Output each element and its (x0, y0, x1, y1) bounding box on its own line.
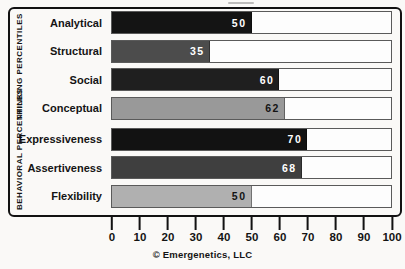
rows: Analytical 50 Structural 35 Social 60 Co… (10, 9, 400, 213)
bar-track: 50 (111, 185, 392, 208)
tick-label: 30 (190, 232, 203, 244)
axis-tick: 10 (134, 217, 147, 244)
axis-tick: 40 (218, 217, 231, 244)
bar-value: 70 (288, 134, 303, 145)
bar-value: 50 (232, 191, 247, 202)
category-label: Assertiveness (15, 156, 111, 179)
tick-label: 40 (218, 232, 231, 244)
axis-tick: 80 (330, 217, 343, 244)
bar-row: Structural 35 (15, 40, 400, 63)
bar-row: Flexibility 50 (15, 185, 400, 208)
tick-label: 80 (330, 232, 343, 244)
tick-mark (251, 217, 253, 230)
bar-track: 60 (111, 68, 392, 91)
axis-tick: 0 (109, 217, 115, 244)
tick-label: 10 (134, 232, 147, 244)
bar-track: 50 (111, 11, 392, 34)
bar-row: Assertiveness 68 (15, 156, 400, 179)
tick-mark (139, 217, 141, 230)
bar-value: 50 (232, 17, 247, 28)
tick-label: 50 (246, 232, 259, 244)
axis-tick: 90 (358, 217, 371, 244)
tick-label: 0 (109, 232, 115, 244)
tick-mark (391, 217, 393, 230)
scan-artifact (228, 2, 254, 4)
bar-value: 68 (282, 162, 297, 173)
bar-value: 35 (190, 46, 205, 57)
tick-label: 70 (302, 232, 315, 244)
tick-mark (335, 217, 337, 230)
tick-label: 60 (274, 232, 287, 244)
bar-track: 35 (111, 40, 392, 63)
category-label: Expressiveness (15, 128, 111, 151)
bar-fill: 68 (112, 157, 302, 178)
tick-mark (307, 217, 309, 230)
bar-fill: 35 (112, 41, 210, 62)
bar-track: 70 (111, 128, 392, 151)
tick-mark (195, 217, 197, 230)
bar-fill: 50 (112, 12, 252, 33)
axis-tick: 50 (246, 217, 259, 244)
bar-fill: 62 (112, 98, 285, 119)
category-label: Analytical (15, 11, 111, 34)
category-label: Social (15, 68, 111, 91)
category-label: Structural (15, 40, 111, 63)
chart-caption: © Emergenetics, LLC (0, 249, 405, 260)
bar-fill: 60 (112, 69, 279, 90)
bar-row: Expressiveness 70 (15, 128, 400, 151)
axis-tick: 100 (382, 217, 401, 244)
axis-tick: 60 (274, 217, 287, 244)
bar-fill: 50 (112, 186, 252, 207)
bar-fill: 70 (112, 129, 307, 150)
bar-row: Conceptual 62 (15, 97, 400, 120)
tick-label: 90 (358, 232, 371, 244)
bar-track: 68 (111, 156, 392, 179)
tick-mark (223, 217, 225, 230)
bar-value: 60 (260, 74, 275, 85)
axis-tick: 70 (302, 217, 315, 244)
tick-mark (167, 217, 169, 230)
axis-tick: 20 (162, 217, 175, 244)
category-label: Conceptual (15, 97, 111, 120)
axis-tick: 30 (190, 217, 203, 244)
tick-label: 20 (162, 232, 175, 244)
tick-mark (363, 217, 365, 230)
tick-label: 100 (382, 232, 401, 244)
chart-box: THINKING PERCENTILES BEHAVIORAL PERCENTI… (8, 7, 402, 217)
tick-mark (111, 217, 113, 230)
bar-row: Social 60 (15, 68, 400, 91)
category-label: Flexibility (15, 185, 111, 208)
bar-value: 62 (265, 103, 280, 114)
bar-row: Analytical 50 (15, 11, 400, 34)
bar-track: 62 (111, 97, 392, 120)
tick-mark (279, 217, 281, 230)
